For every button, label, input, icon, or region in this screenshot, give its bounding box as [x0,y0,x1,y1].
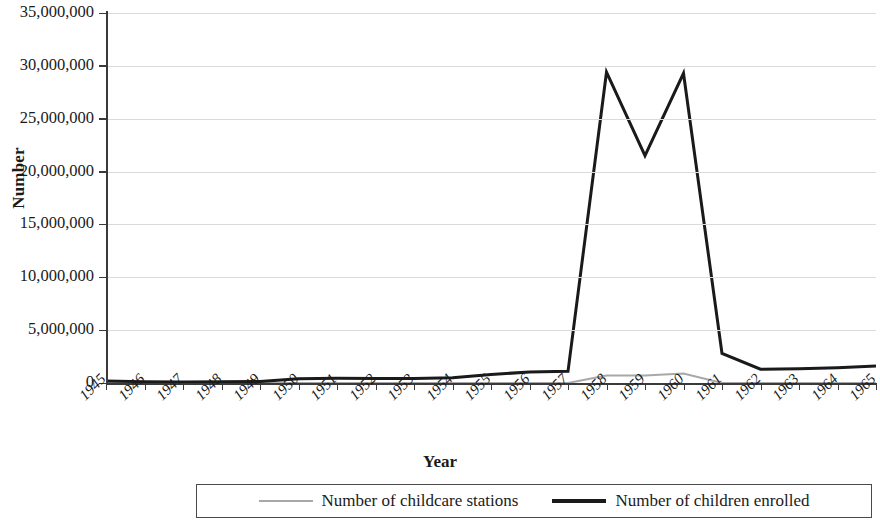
gridline [106,277,876,278]
y-axis-tick-label: 35,000,000 [2,4,94,20]
gridline [106,119,876,120]
y-axis-tick-label: 25,000,000 [2,110,94,126]
legend-swatch-enrolled-icon [552,499,606,503]
legend-label-enrolled: Number of children enrolled [615,491,809,511]
y-axis-line [106,11,108,385]
gridline [106,330,876,331]
x-axis-title: Year [0,452,880,472]
gridline [106,224,876,225]
gridline [106,13,876,14]
legend-swatch-stations-icon [259,500,313,502]
plot-area [106,13,876,383]
gridlines [106,13,876,383]
chart-figure: Number 05,000,00010,000,00015,000,00020,… [0,0,880,520]
chart-legend: Number of childcare stations Number of c… [196,484,872,518]
legend-item-stations: Number of childcare stations [259,491,519,511]
y-axis-tick-label: 20,000,000 [2,163,94,179]
y-axis-tick-label: 5,000,000 [2,321,94,337]
y-axis-tick-label: 30,000,000 [2,57,94,73]
y-axis-tick-label: 10,000,000 [2,268,94,284]
gridline [106,172,876,173]
legend-label-stations: Number of childcare stations [322,491,519,511]
y-axis-tick-label: 15,000,000 [2,215,94,231]
legend-item-enrolled: Number of children enrolled [552,491,809,511]
gridline [106,66,876,67]
